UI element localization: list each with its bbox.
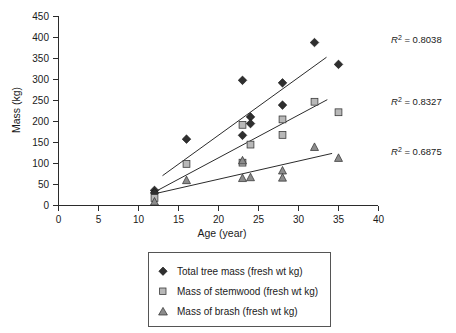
data-point — [279, 132, 286, 139]
legend-item-stemwood: Mass of stemwood (fresh wt kg) — [160, 286, 319, 297]
data-point — [311, 143, 319, 151]
data-point — [279, 174, 287, 182]
data-point — [247, 173, 255, 181]
legend: Total tree mass (fresh wt kg) Mass of st… — [149, 253, 331, 327]
data-point — [278, 101, 287, 110]
data-point — [310, 38, 319, 47]
scatter-chart: 450 400 350 300 250 200 150 100 50 0 Mas… — [0, 0, 456, 333]
data-point — [246, 119, 255, 128]
x-axis: 0 5 10 15 20 25 30 35 40 Age (year) — [56, 206, 385, 240]
legend-item-total-tree-mass: Total tree mass (fresh wt kg) — [159, 266, 303, 277]
data-point — [238, 131, 247, 140]
data-point — [239, 121, 246, 128]
y-tick-200: 200 — [32, 116, 49, 127]
y-tick-100: 100 — [32, 158, 49, 169]
square-marker-icon — [160, 288, 166, 294]
legend-label-total-tree-mass: Total tree mass (fresh wt kg) — [177, 266, 303, 277]
data-point — [247, 141, 254, 148]
data-point — [279, 116, 286, 123]
r2-label-stemwood: R2 = 0.8327 — [391, 96, 442, 107]
x-tick-15: 15 — [173, 214, 185, 225]
diamond-marker-icon — [159, 267, 167, 275]
legend-label-stemwood: Mass of stemwood (fresh wt kg) — [177, 286, 318, 297]
data-point — [239, 174, 247, 182]
y-tick-400: 400 — [32, 32, 49, 43]
y-tick-50: 50 — [38, 179, 50, 190]
data-point — [278, 79, 287, 88]
data-point — [183, 176, 191, 184]
legend-item-brash: Mass of brash (fresh wt kg) — [159, 306, 298, 317]
y-tick-450: 450 — [32, 11, 49, 22]
data-point — [183, 161, 190, 168]
y-tick-300: 300 — [32, 74, 49, 85]
x-tick-5: 5 — [96, 214, 102, 225]
data-point — [334, 60, 343, 69]
y-axis-title: Mass (kg) — [10, 87, 22, 133]
data-point — [182, 135, 191, 144]
legend-label-brash: Mass of brash (fresh wt kg) — [177, 306, 298, 317]
x-tick-20: 20 — [213, 214, 225, 225]
y-tick-250: 250 — [32, 95, 49, 106]
triangle-marker-icon — [159, 307, 168, 315]
y-tick-150: 150 — [32, 137, 49, 148]
trend-line-0 — [163, 57, 327, 175]
chart-canvas: 450 400 350 300 250 200 150 100 50 0 Mas… — [0, 0, 456, 333]
y-tick-0: 0 — [43, 200, 49, 211]
y-tick-350: 350 — [32, 53, 49, 64]
r2-label-brash: R2 = 0.6875 — [391, 146, 442, 157]
data-point — [335, 154, 343, 162]
x-tick-30: 30 — [293, 214, 305, 225]
x-tick-10: 10 — [133, 214, 145, 225]
x-axis-title: Age (year) — [197, 227, 246, 239]
r2-label-total-tree-mass: R2 = 0.8038 — [391, 34, 442, 45]
x-tick-40: 40 — [373, 214, 385, 225]
x-tick-0: 0 — [56, 214, 62, 225]
y-axis: 450 400 350 300 250 200 150 100 50 0 Mas… — [10, 11, 59, 211]
data-point — [311, 98, 318, 105]
data-point — [335, 109, 342, 116]
r2-annotations: R2 = 0.8038 R2 = 0.8327 R2 = 0.6875 — [391, 34, 442, 157]
data-points — [150, 38, 343, 205]
x-tick-35: 35 — [333, 214, 345, 225]
x-tick-25: 25 — [253, 214, 265, 225]
data-point — [238, 76, 247, 85]
